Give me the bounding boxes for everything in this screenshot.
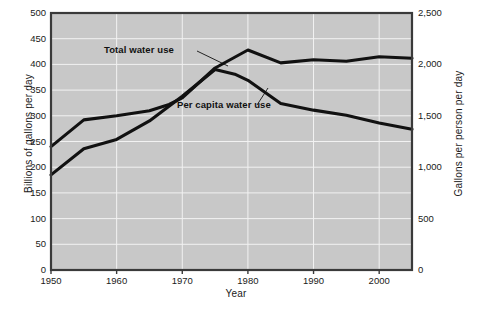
series-label-per-capita-water-use: Per capita water use bbox=[177, 99, 271, 110]
plot-canvas bbox=[0, 0, 478, 312]
series-label-total-water-use: Total water use bbox=[104, 44, 174, 55]
chart-figure: Billions of gallons per day Gallons per … bbox=[0, 0, 478, 312]
